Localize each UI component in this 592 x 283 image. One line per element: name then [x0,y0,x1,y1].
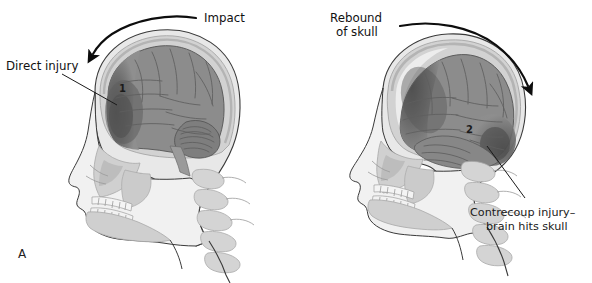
coup-contrecoup-figure: Impact Direct injury Rebound of skull Co… [0,0,592,283]
contrecoup-label-line1: Contrecoup injury– [470,206,576,219]
direct-injury-label: Direct injury [6,59,78,73]
figure-illustration: Impact Direct injury Rebound of skull Co… [0,0,592,283]
contrecoup-marker-number: 2 [466,124,473,135]
panel-letter: A [18,247,27,261]
coup-marker-number: 1 [119,83,126,94]
impact-label: Impact [204,11,245,25]
contrecoup-label-line2: brain hits skull [486,220,568,233]
rebound-of-skull-label-line1: Rebound [330,11,382,25]
left-coup-contusion-deep [109,94,133,138]
rebound-of-skull-label-line2: of skull [336,25,378,39]
